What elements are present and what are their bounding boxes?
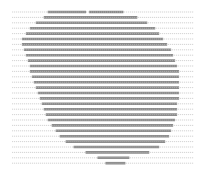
rows-group [12,12,194,163]
line-pattern-shape [0,0,199,172]
